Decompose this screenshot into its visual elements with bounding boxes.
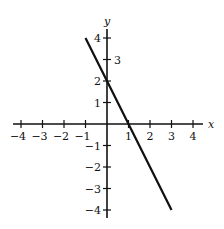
x-axis-label: x bbox=[208, 118, 215, 131]
y-tick-label: −2 bbox=[85, 161, 101, 174]
x-tick-label: −3 bbox=[31, 130, 47, 143]
y-tick-label: 3 bbox=[114, 54, 121, 67]
axes bbox=[13, 29, 203, 218]
x-tick-label: 4 bbox=[190, 130, 197, 143]
y-tick-label: 4 bbox=[94, 32, 101, 45]
y-tick-label: 2 bbox=[94, 75, 101, 88]
coordinate-plot: −4−3−2−112344321−1−2−3−4 x y bbox=[0, 0, 224, 229]
y-tick-label: −4 bbox=[85, 204, 101, 217]
x-tick-label: 2 bbox=[147, 130, 154, 143]
x-tick-label: 3 bbox=[168, 130, 175, 143]
y-tick-label: −3 bbox=[85, 183, 101, 196]
y-tick-label: 1 bbox=[94, 97, 101, 110]
y-tick-label: −1 bbox=[85, 140, 101, 153]
x-tick-label: −2 bbox=[53, 130, 69, 143]
x-tick-label: −4 bbox=[10, 130, 26, 143]
y-axis-label: y bbox=[103, 15, 111, 28]
x-tick-label: 1 bbox=[125, 130, 132, 143]
